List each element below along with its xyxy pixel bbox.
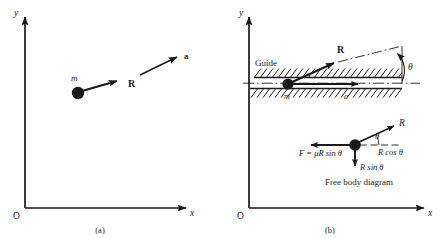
guide-bottom-hatching — [250, 88, 402, 99]
free-body-diagram: R θ R cos θ F = μR sin θ R sin θ Free bo… — [298, 118, 405, 187]
panel-a-mass-label: m — [71, 73, 78, 83]
panel-b: y O x — [237, 8, 433, 235]
guide-label: Guide — [255, 58, 277, 68]
fbd-friction-label: F = μR sin θ — [298, 148, 342, 158]
panel-a-acceleration-vector — [140, 57, 177, 75]
panel-b-acceleration-label: a — [344, 92, 348, 101]
panel-a-force-vector — [82, 81, 117, 91]
panel-a-force-label: R — [128, 78, 136, 89]
panel-b-caption: (b) — [325, 225, 335, 235]
fbd-horizontal-component-label: R cos θ — [377, 147, 403, 157]
panel-a-origin-label: O — [13, 211, 20, 221]
panel-b-force-label: R — [337, 44, 345, 55]
panel-b-y-axis-label: y — [238, 8, 244, 18]
fbd-force-R-label: R — [398, 118, 405, 128]
fbd-angle-theta-label: θ — [375, 131, 379, 141]
panel-a-caption: (a) — [95, 225, 105, 235]
guide-top-hatching — [254, 67, 406, 78]
panel-a-mass-particle — [72, 87, 84, 99]
panel-a: y O x m R a (a) — [13, 8, 195, 235]
panel-b-origin-label: O — [237, 211, 244, 221]
panel-a-y-axis-label: y — [13, 8, 19, 18]
figure-canvas: y O x m R a (a) y O x — [0, 0, 442, 238]
force-direction-extension — [338, 46, 402, 62]
panel-b-mass-label: m — [284, 92, 290, 101]
angle-theta-label: θ — [408, 62, 413, 72]
panel-a-x-axis-label: x — [189, 208, 195, 218]
fbd-vertical-component-label: R sin θ — [359, 162, 384, 172]
fbd-title: Free body diagram — [325, 177, 393, 187]
panel-b-x-axis-label: x — [427, 208, 433, 218]
physics-figure: y O x m R a (a) y O x — [0, 0, 442, 238]
panel-b-force-vector — [291, 63, 334, 83]
panel-a-acceleration-label: a — [184, 51, 189, 61]
